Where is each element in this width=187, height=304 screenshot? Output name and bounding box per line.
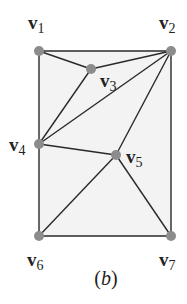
triangulation-diagram: v1v2v3v4v5v6v7 (b) — [0, 0, 187, 304]
vertex-v4 — [34, 139, 44, 149]
vertex-v2 — [166, 46, 176, 56]
label-v4: v4 — [9, 134, 26, 158]
caption: (b) — [94, 267, 117, 290]
vertex-v6 — [34, 231, 44, 241]
label-v7: v7 — [159, 249, 176, 273]
vertex-v1 — [34, 46, 44, 56]
vertex-v7 — [166, 231, 176, 241]
label-v1: v1 — [28, 12, 45, 36]
vertex-v5 — [111, 150, 121, 160]
vertex-v3 — [86, 64, 96, 74]
label-v6: v6 — [27, 249, 44, 273]
label-v2: v2 — [159, 12, 176, 36]
